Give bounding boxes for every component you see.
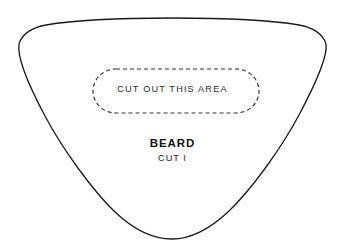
pattern-drawing bbox=[0, 0, 345, 250]
beard-pattern-outline bbox=[19, 18, 326, 239]
cut-out-region-outline bbox=[93, 69, 259, 113]
pattern-sheet: CUT OUT THIS AREA BEARD CUT I bbox=[0, 0, 345, 250]
